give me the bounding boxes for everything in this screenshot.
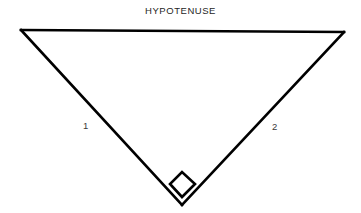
hypotenuse-edge [21, 30, 344, 32]
triangle-drawing [0, 0, 361, 213]
hypotenuse-label: HYPOTENUSE [0, 6, 361, 16]
left-leg-edge [21, 30, 182, 205]
right-leg-label: 2 [272, 122, 277, 132]
left-leg-label: 1 [83, 121, 88, 131]
right-triangle-figure: HYPOTENUSE 1 2 [0, 0, 361, 213]
right-leg-edge [182, 32, 344, 205]
